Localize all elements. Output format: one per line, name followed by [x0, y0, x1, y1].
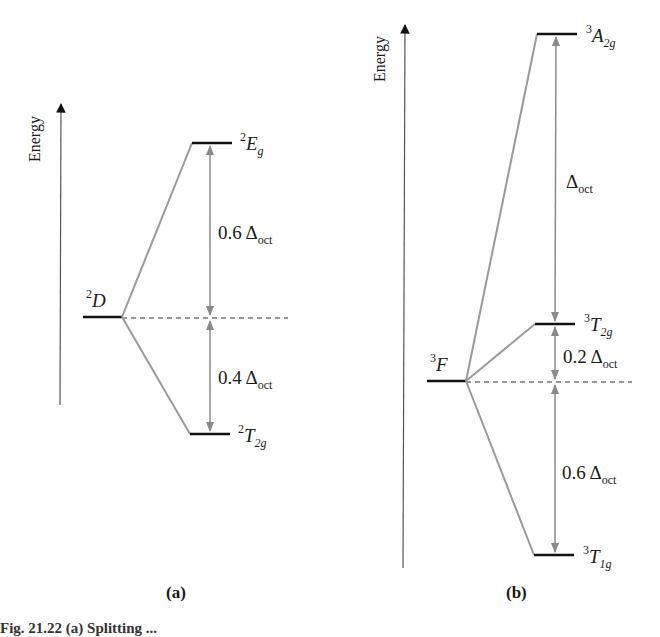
- term-label-2D: 2D: [86, 289, 106, 312]
- term-label-3T1g: 3T1g: [583, 545, 612, 572]
- energy-axis-label-b: Energy: [371, 36, 389, 82]
- energy-axis-label-a: Energy: [26, 116, 44, 162]
- connector-2D-2Eg: [122, 143, 192, 317]
- connector-3F-3A2g: [466, 34, 537, 381]
- energy-axis-a: [60, 104, 61, 405]
- connector-2D-2T2g: [122, 317, 190, 434]
- term-label-3A2g: 3A2g: [586, 24, 616, 51]
- connector-3F-3T1g: [466, 381, 534, 555]
- term-label-3T2g: 3T2g: [584, 313, 613, 340]
- energy-axis-b: [403, 25, 405, 568]
- panel-label-b: (b): [506, 583, 527, 603]
- figure-caption: Fig. 21.22 (a) Splitting ...: [0, 620, 157, 637]
- gap-label-0.2-delta: 0.2 Δoct: [563, 346, 617, 372]
- panel-label-a: (a): [166, 583, 186, 603]
- term-label-2Eg: 2Eg: [240, 132, 264, 159]
- gap-label-0.6-delta: 0.6 Δoct: [218, 222, 272, 248]
- term-label-2T2g: 2T2g: [238, 424, 267, 451]
- gap-arrow-1.0: [555, 37, 556, 321]
- gap-label-0.4-delta: 0.4 Δoct: [218, 367, 272, 393]
- gap-label-delta: Δoct: [566, 171, 593, 197]
- gap-label-0.6-delta-b: 0.6 Δoct: [562, 462, 616, 488]
- term-label-3F: 3F: [430, 353, 448, 376]
